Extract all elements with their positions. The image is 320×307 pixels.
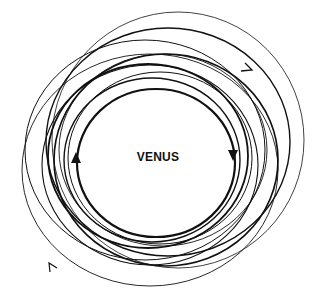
orbit-loop <box>46 28 290 256</box>
venus-label: VENUS <box>128 150 188 164</box>
arrow-up-icon <box>71 152 81 163</box>
arrow-right-icon <box>241 63 252 71</box>
orbit-loop <box>42 65 258 265</box>
arrow-up-left-icon <box>49 263 57 272</box>
arrow-down-icon <box>228 150 238 161</box>
